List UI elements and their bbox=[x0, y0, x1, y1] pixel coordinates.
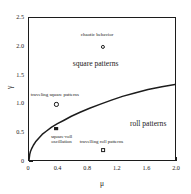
x-axis-title: μ bbox=[100, 179, 104, 188]
y-tick-label: 0 bbox=[8, 158, 24, 164]
annotation-label: chaotic behavior bbox=[81, 33, 113, 38]
region-label: roll patterns bbox=[130, 119, 166, 128]
y-tick-label: 1.0 bbox=[8, 100, 24, 106]
x-tick-label: 1.6 bbox=[143, 165, 151, 171]
y-axis-title: γ bbox=[5, 86, 14, 89]
annotation-label: travelling roll patterns bbox=[80, 139, 123, 144]
y-tick-major bbox=[29, 161, 34, 162]
y-tick-label: 1.5 bbox=[8, 71, 24, 77]
y-tick-label: 0.5 bbox=[8, 129, 24, 135]
phase-diagram-figure: μ γ 00.40.81.21.62.000.51.01.52.02.5 squ… bbox=[0, 0, 191, 194]
x-tick-label: 0 bbox=[26, 165, 29, 171]
annotation-label: traveling square patterns bbox=[31, 92, 79, 97]
y-tick-label: 2.0 bbox=[8, 43, 24, 49]
region-label: square patterns bbox=[73, 58, 119, 67]
plot-area: square patternsroll patternschaotic beha… bbox=[29, 18, 175, 160]
annotation-label: square-roll oscillation bbox=[45, 133, 79, 144]
x-tick-label: 0.8 bbox=[83, 165, 91, 171]
plot-frame: square patternsroll patternschaotic beha… bbox=[28, 17, 176, 161]
y-tick-label: 2.5 bbox=[8, 14, 24, 20]
x-tick-label: 1.2 bbox=[113, 165, 121, 171]
data-point-marker bbox=[101, 149, 105, 153]
x-tick-label: 0.4 bbox=[54, 165, 62, 171]
x-tick-major bbox=[176, 157, 177, 162]
x-tick-label: 2.0 bbox=[172, 165, 180, 171]
data-point-marker bbox=[54, 127, 58, 131]
